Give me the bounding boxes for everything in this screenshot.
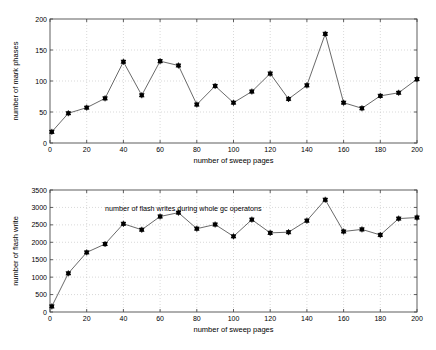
- data-point-marker: [158, 58, 163, 64]
- figure-container: 020406080100120140160180200050100150200 …: [0, 0, 436, 350]
- x-tick-label: 80: [193, 315, 201, 322]
- chart-panel-flash-writes: 0204060801001201401601802000500100015002…: [0, 175, 436, 350]
- y-tick-label: 50: [39, 109, 47, 116]
- data-point-marker: [341, 100, 346, 106]
- x-tick-label: 0: [48, 146, 52, 153]
- series-markers: [49, 31, 419, 135]
- data-point-marker: [323, 31, 328, 37]
- data-point-marker: [304, 82, 309, 88]
- y-tick-label: 100: [35, 78, 47, 85]
- data-point-marker: [66, 110, 71, 116]
- mark-phases-plot: 020406080100120140160180200050100150200: [0, 0, 436, 175]
- data-point-marker: [249, 89, 254, 95]
- x-tick-label: 40: [120, 146, 128, 153]
- y-tick-label: 500: [35, 291, 47, 298]
- series-markers: [49, 197, 419, 310]
- data-point-marker: [139, 92, 144, 98]
- data-point-marker: [378, 93, 383, 99]
- data-point-marker: [414, 76, 419, 82]
- data-point-marker: [268, 230, 273, 236]
- x-tick-label: 120: [264, 315, 276, 322]
- x-tick-label: 80: [193, 146, 201, 153]
- data-point-marker: [84, 105, 89, 111]
- data-point-marker: [213, 83, 218, 89]
- x-tick-label: 140: [301, 315, 313, 322]
- y-tick-label: 1500: [31, 256, 47, 263]
- data-point-marker: [341, 228, 346, 234]
- chart-panel-mark-phases: 020406080100120140160180200050100150200 …: [0, 0, 436, 175]
- x-tick-label: 60: [156, 315, 164, 322]
- y-tick-label: 2000: [31, 239, 47, 246]
- x-tick-label: 0: [48, 315, 52, 322]
- y-axis-label-bottom: number of flash write: [11, 190, 20, 312]
- y-tick-label: 3500: [31, 187, 47, 194]
- y-tick-label: 2500: [31, 221, 47, 228]
- y-tick-label: 0: [43, 309, 47, 316]
- y-tick-label: 1000: [31, 274, 47, 281]
- data-point-marker: [323, 197, 328, 203]
- data-point-marker: [194, 102, 199, 108]
- data-point-marker: [102, 95, 107, 101]
- x-tick-label: 160: [338, 315, 350, 322]
- x-tick-label: 160: [338, 146, 350, 153]
- data-point-marker: [286, 229, 291, 235]
- data-point-marker: [359, 226, 364, 232]
- x-tick-label: 180: [374, 315, 386, 322]
- x-tick-label: 200: [411, 315, 423, 322]
- x-tick-label: 180: [374, 146, 386, 153]
- series-line: [52, 34, 417, 132]
- x-tick-label: 200: [411, 146, 423, 153]
- x-axis-label-top: number of sweep pages: [50, 156, 417, 165]
- data-point-marker: [176, 63, 181, 69]
- x-tick-label: 140: [301, 146, 313, 153]
- x-tick-label: 20: [83, 146, 91, 153]
- data-point-marker: [213, 222, 218, 228]
- x-axis-label-bottom: number of sweep pages: [50, 325, 417, 334]
- gridlines: [50, 19, 417, 143]
- y-axis-label-top: number of mark phases: [11, 19, 20, 143]
- data-point-marker: [414, 215, 419, 221]
- flash-writes-plot: 0204060801001201401601802000500100015002…: [0, 175, 436, 350]
- data-point-marker: [396, 90, 401, 96]
- x-tick-label: 100: [228, 146, 240, 153]
- data-point-marker: [268, 71, 273, 77]
- x-tick-label: 100: [228, 315, 240, 322]
- data-point-marker: [121, 59, 126, 65]
- series-line: [52, 200, 417, 307]
- data-point-marker: [231, 100, 236, 106]
- y-tick-label: 3000: [31, 204, 47, 211]
- data-point-marker: [139, 227, 144, 233]
- x-tick-label: 40: [120, 315, 128, 322]
- data-point-marker: [286, 96, 291, 102]
- y-tick-label: 150: [35, 47, 47, 54]
- x-tick-label: 20: [83, 315, 91, 322]
- x-tick-label: 120: [264, 146, 276, 153]
- y-tick-label: 0: [43, 140, 47, 147]
- axis-ticks: 020406080100120140160180200050100150200: [35, 16, 423, 154]
- y-tick-label: 200: [35, 16, 47, 23]
- data-point-marker: [158, 213, 163, 219]
- x-tick-label: 60: [156, 146, 164, 153]
- data-point-marker: [359, 105, 364, 111]
- chart-annotation: number of flash writes during whole gc o…: [105, 204, 262, 213]
